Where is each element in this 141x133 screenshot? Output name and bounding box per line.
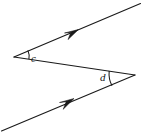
angle-label-c: c	[31, 52, 36, 64]
lower-line-arrow-icon	[60, 99, 75, 110]
geometry-diagram: c d	[0, 0, 141, 133]
angle-arc-d	[109, 71, 112, 86]
geometry-canvas: c d	[0, 0, 141, 133]
angle-arc-c	[28, 50, 29, 59]
angle-label-d: d	[100, 71, 106, 83]
